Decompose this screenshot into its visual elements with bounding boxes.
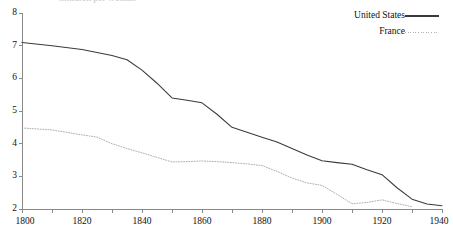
x-tick-label: 1800 bbox=[5, 217, 45, 227]
y-tick-label: 3 bbox=[3, 171, 17, 181]
y-tick-label: 5 bbox=[3, 106, 17, 116]
y-tick-label: 4 bbox=[3, 139, 17, 149]
legend-swatches bbox=[405, 16, 439, 32]
x-tick-label: 1920 bbox=[362, 217, 402, 227]
x-tick-label: 1840 bbox=[122, 217, 162, 227]
data-series bbox=[22, 42, 442, 206]
axes bbox=[19, 13, 442, 213]
y-tick-label: 2 bbox=[3, 204, 17, 214]
x-tick-label: 1820 bbox=[62, 217, 102, 227]
legend-label-united-states: United States bbox=[354, 11, 405, 21]
x-tick-label: 1900 bbox=[302, 217, 342, 227]
x-tick-label: 1880 bbox=[242, 217, 282, 227]
y-tick-label: 8 bbox=[3, 8, 17, 18]
x-tick-label: 1940 bbox=[419, 217, 453, 227]
y-tick-label: 6 bbox=[3, 73, 17, 83]
y-tick-label: 7 bbox=[3, 41, 17, 51]
series-line-france bbox=[22, 128, 412, 207]
x-tick-label: 1860 bbox=[182, 217, 222, 227]
legend-label-france: France bbox=[379, 27, 405, 37]
series-line-united-states bbox=[22, 42, 442, 205]
